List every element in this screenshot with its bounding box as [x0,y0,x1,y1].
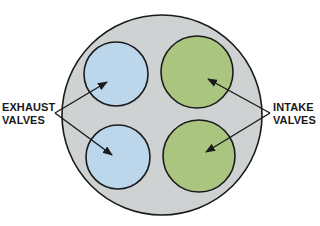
intake-valve-top [161,36,233,108]
exhaust-valve-bottom [86,125,150,189]
intake-valve-bottom [163,120,235,192]
exhaust-label-line2: VALVES [2,114,55,127]
intake-label-line1: INTAKE [273,101,316,114]
cylinder-bore [62,15,262,215]
intake-label-line2: VALVES [273,114,316,127]
intake-valves-label: INTAKE VALVES [273,101,316,127]
exhaust-label-line1: EXHAUST [2,101,55,114]
valve-diagram: EXHAUST VALVES INTAKE VALVES [0,0,320,226]
exhaust-valves-label: EXHAUST VALVES [2,101,55,127]
exhaust-valve-top [84,42,148,106]
